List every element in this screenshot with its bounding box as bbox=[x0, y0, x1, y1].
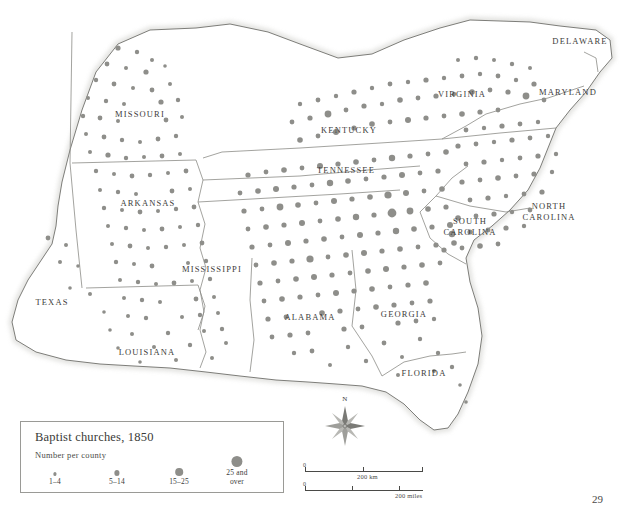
church-dot bbox=[514, 78, 518, 82]
scale-bar-km: 0 200 km bbox=[305, 462, 455, 481]
church-dot bbox=[316, 293, 321, 298]
scale-tick-miles-end bbox=[399, 486, 400, 491]
church-dot bbox=[98, 188, 102, 192]
church-dot bbox=[94, 169, 98, 173]
church-dot bbox=[190, 279, 194, 283]
legend-dot bbox=[53, 472, 56, 475]
church-dot bbox=[333, 290, 339, 296]
church-dot bbox=[307, 115, 312, 120]
church-dot bbox=[469, 89, 475, 95]
church-dot bbox=[182, 243, 186, 247]
church-dot bbox=[135, 50, 139, 54]
church-dot bbox=[536, 120, 540, 124]
church-dot bbox=[164, 118, 169, 123]
church-dot bbox=[455, 143, 460, 148]
church-dot bbox=[150, 58, 154, 62]
church-dot bbox=[384, 191, 391, 198]
church-dot bbox=[492, 58, 496, 62]
church-dot bbox=[284, 315, 289, 320]
church-dot bbox=[263, 224, 269, 230]
church-dot bbox=[300, 166, 305, 171]
church-dot bbox=[262, 299, 267, 304]
church-dot bbox=[500, 158, 504, 162]
church-dot bbox=[122, 102, 126, 106]
church-dot bbox=[319, 310, 325, 316]
church-dot bbox=[411, 226, 417, 232]
church-dot bbox=[216, 311, 220, 315]
church-dot bbox=[441, 247, 446, 252]
church-dot bbox=[188, 343, 192, 347]
church-dot bbox=[136, 280, 140, 284]
church-dot bbox=[150, 88, 155, 93]
church-dot bbox=[105, 152, 110, 157]
church-dot bbox=[337, 308, 342, 313]
church-dot bbox=[459, 179, 464, 184]
church-dot bbox=[220, 327, 224, 331]
church-dot bbox=[510, 62, 514, 66]
church-dot bbox=[287, 332, 292, 337]
church-dot bbox=[369, 286, 375, 292]
church-dot bbox=[496, 108, 501, 113]
church-dot bbox=[116, 119, 120, 123]
church-dot bbox=[132, 262, 136, 266]
church-dot bbox=[357, 232, 363, 238]
church-dot bbox=[196, 223, 200, 227]
church-dot bbox=[271, 260, 277, 266]
church-dot bbox=[245, 172, 250, 177]
church-dot bbox=[361, 103, 366, 108]
church-dot bbox=[478, 72, 482, 76]
church-dot bbox=[265, 316, 270, 321]
church-dot bbox=[335, 216, 341, 222]
church-dot bbox=[381, 174, 386, 179]
church-dot bbox=[418, 171, 423, 176]
church-dot bbox=[331, 198, 337, 204]
church-dot bbox=[168, 82, 172, 86]
church-dot bbox=[124, 156, 128, 160]
church-dot bbox=[485, 195, 490, 200]
church-dot bbox=[514, 174, 519, 179]
church-dot bbox=[158, 300, 162, 304]
church-dot bbox=[360, 325, 365, 330]
church-dot bbox=[202, 329, 206, 333]
church-dot bbox=[86, 96, 90, 100]
church-dot bbox=[130, 332, 134, 336]
church-dot bbox=[108, 328, 112, 332]
church-dot bbox=[451, 240, 457, 246]
church-dot bbox=[328, 363, 332, 367]
church-dot bbox=[410, 301, 415, 306]
legend-swatch bbox=[213, 445, 261, 467]
legend-caption: 15–25 bbox=[155, 478, 203, 487]
church-dot bbox=[321, 236, 327, 242]
church-dot bbox=[474, 142, 479, 147]
legend-item-3: 15–25 bbox=[155, 454, 203, 487]
church-dot bbox=[550, 170, 554, 174]
church-dot bbox=[254, 263, 259, 268]
church-dot bbox=[477, 243, 483, 249]
church-dot bbox=[474, 56, 478, 60]
church-dot bbox=[531, 81, 536, 86]
church-dot bbox=[166, 171, 170, 175]
church-dot bbox=[531, 171, 536, 176]
church-dot bbox=[68, 286, 72, 290]
church-dot bbox=[474, 214, 479, 219]
church-dot bbox=[370, 86, 374, 90]
legend-swatch bbox=[155, 454, 203, 476]
church-dot bbox=[104, 99, 108, 103]
church-dot bbox=[432, 317, 436, 321]
church-dot bbox=[146, 246, 150, 250]
church-dot bbox=[279, 296, 285, 302]
church-dot bbox=[130, 174, 135, 179]
church-dot bbox=[291, 184, 296, 189]
church-dot bbox=[495, 175, 501, 181]
legend-item-4: 25 and over bbox=[213, 445, 261, 486]
church-dot bbox=[124, 66, 128, 70]
church-dot bbox=[353, 159, 359, 165]
church-dot bbox=[281, 222, 286, 227]
church-dot bbox=[106, 224, 110, 228]
church-dot bbox=[156, 209, 160, 213]
church-dot bbox=[131, 86, 135, 90]
church-dot bbox=[341, 326, 346, 331]
church-dot bbox=[535, 153, 540, 158]
legend-title: Baptist churches, 1850 bbox=[35, 430, 154, 445]
church-dot bbox=[116, 346, 120, 350]
